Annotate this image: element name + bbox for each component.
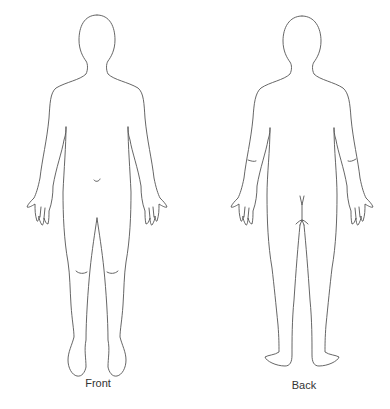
front-view-label: Front	[68, 377, 128, 389]
body-diagram: Front Back	[0, 0, 390, 409]
back-view-label: Back	[274, 379, 334, 391]
back-body-outline	[0, 0, 390, 409]
